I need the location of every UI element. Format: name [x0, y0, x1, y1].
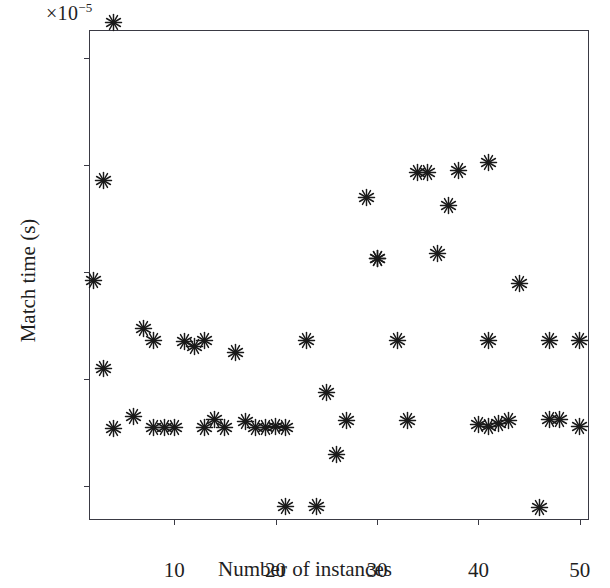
data-point-marker — [571, 418, 588, 435]
x-tick-mark — [580, 519, 581, 525]
y-tick-mark — [84, 272, 90, 273]
data-point-marker — [328, 446, 345, 463]
data-point-marker — [247, 419, 264, 436]
data-point-marker — [145, 332, 162, 349]
x-tick-mark — [276, 519, 277, 525]
data-point-marker — [480, 154, 497, 171]
data-point-marker — [85, 272, 102, 289]
x-tick-label: 20 — [246, 558, 306, 583]
y-axis-exponent-base: ×10 — [46, 2, 78, 24]
data-point-marker — [196, 332, 213, 349]
data-point-marker — [277, 498, 294, 515]
data-point-marker — [318, 384, 335, 401]
data-point-marker — [358, 189, 375, 206]
x-tick-label: 30 — [347, 558, 407, 583]
data-point-marker — [298, 332, 315, 349]
y-tick-mark — [84, 379, 90, 380]
data-point-marker — [450, 162, 467, 179]
data-point-marker — [389, 332, 406, 349]
data-point-marker — [338, 412, 355, 429]
data-point-marker — [267, 418, 284, 435]
y-tick-mark — [84, 165, 90, 166]
data-point-marker — [227, 344, 244, 361]
data-point-marker — [409, 164, 426, 181]
data-point-marker — [531, 499, 548, 516]
data-point-marker — [500, 412, 517, 429]
data-point-marker — [571, 332, 588, 349]
data-point-marker — [196, 419, 213, 436]
data-point-marker — [135, 320, 152, 337]
data-point-marker — [490, 415, 507, 432]
y-axis-title: Match time (s) — [16, 131, 41, 431]
data-point-marker — [206, 411, 223, 428]
y-tick-mark — [84, 58, 90, 59]
data-point-marker — [237, 413, 254, 430]
data-point-marker — [186, 338, 203, 355]
data-point-marker — [105, 420, 122, 437]
data-point-marker — [95, 172, 112, 189]
x-tick-mark — [478, 519, 479, 525]
data-point-marker — [429, 245, 446, 262]
data-point-marker — [156, 419, 173, 436]
data-point-marker — [216, 419, 233, 436]
data-point-marker — [176, 333, 193, 350]
data-point-marker — [551, 411, 568, 428]
x-tick-mark — [377, 519, 378, 525]
y-axis-exponent-power: −5 — [78, 0, 92, 15]
data-point-marker — [105, 14, 122, 31]
data-point-marker — [399, 412, 416, 429]
x-tick-label: 10 — [144, 558, 204, 583]
scatter-chart-figure: ×10−5 Match time (s) Number of instances… — [0, 0, 610, 588]
data-point-marker — [369, 250, 386, 267]
data-point-marker — [125, 408, 142, 425]
data-point-marker — [257, 419, 274, 436]
data-point-marker — [277, 419, 294, 436]
data-point-marker — [369, 250, 386, 267]
data-point-marker — [480, 332, 497, 349]
data-point-marker — [308, 498, 325, 515]
plot-area: 246810 1020304050 — [89, 30, 589, 520]
y-tick-mark — [84, 486, 90, 487]
data-point-marker — [166, 419, 183, 436]
data-point-marker — [541, 411, 558, 428]
data-point-marker — [470, 416, 487, 433]
data-point-marker — [480, 418, 497, 435]
x-tick-mark — [174, 519, 175, 525]
data-point-marker — [541, 332, 558, 349]
data-point-marker — [419, 164, 436, 181]
data-point-marker — [145, 419, 162, 436]
data-point-marker — [511, 275, 528, 292]
x-tick-label: 50 — [550, 558, 610, 583]
data-point-marker — [95, 360, 112, 377]
x-tick-label: 40 — [448, 558, 508, 583]
y-axis-exponent-label: ×10−5 — [46, 2, 93, 25]
data-point-marker — [440, 197, 457, 214]
